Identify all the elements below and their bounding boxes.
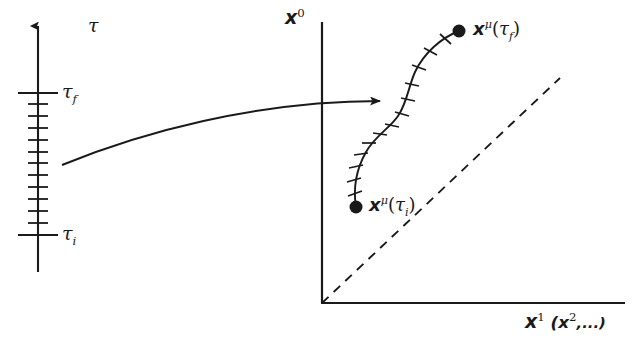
proper-time-axis — [18, 26, 58, 272]
worldline-tick — [373, 133, 387, 135]
tau-initial-tick-label: τi — [62, 224, 76, 248]
x1-paren-open: (x — [545, 312, 569, 332]
x0-symbol: x — [285, 6, 297, 28]
particle-worldline — [347, 25, 466, 214]
initial-event-x-symbol: x — [369, 194, 381, 215]
worldline-tick — [347, 178, 361, 182]
worldline-tick — [354, 153, 368, 155]
final-event-x-symbol: x — [473, 18, 485, 39]
x1-paren-superscript: 2 — [569, 310, 577, 324]
initial-event-paren-open: ( — [388, 194, 395, 215]
tau-final-subscript: f — [73, 92, 77, 106]
figure-canvas — [0, 0, 639, 349]
x0-superscript: 0 — [297, 6, 305, 20]
light-cone-dashed-line — [322, 78, 560, 303]
x0-axis-label: x0 — [285, 8, 305, 27]
tau-initial-subscript: i — [73, 234, 77, 248]
initial-event-tau-symbol: τ — [395, 194, 405, 215]
initial-event-paren-close: ) — [408, 194, 415, 215]
x1-symbol: x — [525, 310, 537, 332]
worldline-tick — [405, 83, 419, 86]
worldline-tick — [395, 112, 409, 116]
spacetime-axes — [321, 22, 625, 303]
figure-root: τ τf τi x0 x1 (x2,...) xμ(τf) xμ(τi) — [0, 0, 639, 349]
x1-axis-label: x1 (x2,...) — [525, 312, 606, 331]
worldline-tick — [349, 165, 363, 168]
worldline-path — [355, 31, 459, 207]
x1-paren-close: ,...) — [577, 314, 606, 331]
tau-final-tick-label: τf — [62, 82, 77, 106]
final-event-label: xμ(τf) — [473, 19, 520, 42]
tau-initial-symbol: τ — [62, 222, 73, 244]
initial-event-mu-superscript: μ — [381, 194, 388, 207]
tau-final-symbol: τ — [62, 80, 73, 102]
parametrization-map-arrow — [62, 101, 380, 165]
x1-superscript: 1 — [537, 310, 545, 324]
final-event-dot — [453, 25, 466, 38]
final-event-mu-superscript: μ — [485, 18, 492, 31]
tau-axis-label: τ — [88, 16, 99, 35]
worldline-tick — [401, 98, 415, 101]
final-event-paren-close: ) — [513, 18, 520, 39]
initial-event-label: xμ(τi) — [369, 195, 416, 218]
final-event-tau-symbol: τ — [499, 18, 509, 39]
final-event-paren-open: ( — [492, 18, 499, 39]
initial-event-dot — [350, 201, 363, 214]
